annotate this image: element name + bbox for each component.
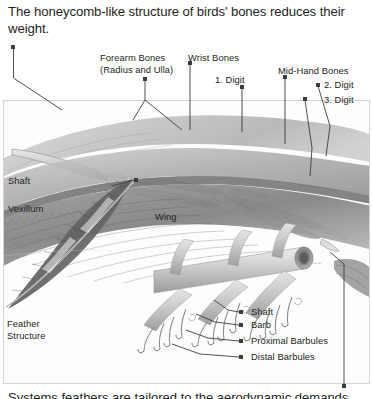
label-proximal-barbules: Proximal Barbules [251,335,328,347]
label-forearm-bones-line2: (Radius and Ulla) [100,64,173,76]
bottom-caption: Systems feathers are tailored to the aer… [8,390,364,399]
marker-distal-barbules [239,355,243,359]
marker-title-callout [11,45,15,49]
label-feather-structure-line2: Structure [7,330,46,342]
marker-proximal-barbules [239,339,243,343]
label-feather-barb: Barb [251,319,271,331]
feather-structure-diagram [138,223,313,353]
marker-shaft-feather [134,178,138,182]
marker-forearm-bones [143,77,147,81]
label-forearm-bones-line1: Forearm Bones [100,52,165,64]
label-wing: Wing [155,211,177,223]
marker-caption-callout [342,384,346,388]
label-wrist-bones: Wrist Bones [188,52,239,64]
marker-feather-shaft [239,310,243,314]
infographic-stage: The honeycomb-like structure of birds' b… [0,0,372,399]
label-feather-shaft: Shaft [251,306,273,318]
label-distal-barbules: Distal Barbules [251,351,315,363]
marker-feather-barb [239,323,243,327]
label-second-digit: 2. Digit [324,79,354,91]
marker-first-digit [240,85,244,89]
page-title: The honeycomb-like structure of birds' b… [8,3,360,37]
label-shaft-feather: Shaft [8,175,30,187]
label-first-digit: 1. Digit [215,74,245,86]
label-third-digit: 3. Digit [324,94,354,106]
marker-third-digit [303,97,307,101]
label-mid-hand-bones: Mid-Hand Bones [278,65,349,77]
label-vexillum: Vexillum [8,203,43,215]
label-feather-structure-line1: Feather [7,318,40,330]
marker-second-digit [316,83,320,87]
